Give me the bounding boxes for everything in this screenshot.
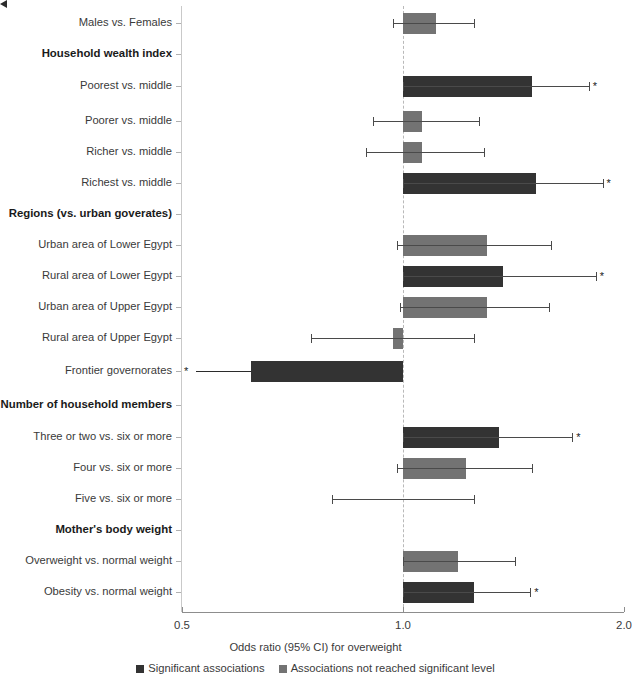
significance-star: *: [576, 432, 580, 443]
ci-cap-high: [603, 179, 604, 188]
ci-cap-low: [400, 303, 401, 312]
ci-cap-low: [397, 464, 398, 473]
legend-item: Associations not reached significant lev…: [279, 663, 495, 674]
ci-cap-high: [474, 19, 475, 28]
ci-cap-high: [515, 557, 516, 566]
row-label: Richest vs. middle: [81, 177, 172, 188]
x-axis-tick: [403, 607, 404, 612]
row-tick: [176, 307, 181, 308]
row-tick: [176, 592, 181, 593]
ci-cap-low: [403, 433, 404, 442]
ci-cap-low: [403, 588, 404, 597]
ci-cap-low: [403, 272, 404, 281]
row-label: Three or two vs. six or more: [33, 431, 172, 442]
ci-cap-high: [474, 495, 475, 504]
row-tick: [176, 371, 181, 372]
row-label: Poorer vs. middle: [85, 115, 172, 126]
row-tick: [176, 121, 181, 122]
ci-line: [332, 499, 474, 500]
row-label: Rural area of Lower Egypt: [42, 270, 172, 281]
ci-line: [403, 561, 515, 562]
arrow-shaft: [196, 371, 251, 372]
chart-legend: Significant associationsAssociations not…: [0, 663, 631, 674]
row-tick: [176, 245, 181, 246]
group-label: Regions (vs. urban goverates): [9, 208, 172, 219]
plot-left-spine: [181, 6, 182, 612]
row-label: Poorest vs. middle: [80, 80, 172, 91]
ci-line: [403, 276, 596, 277]
ci-cap-high: [551, 241, 552, 250]
arrow-head: [0, 0, 7, 8]
row-tick: [176, 23, 181, 24]
significance-star: *: [184, 366, 188, 377]
ci-cap-high: [572, 433, 573, 442]
row-tick: [176, 405, 181, 406]
ci-cap-low: [403, 557, 404, 566]
row-tick: [176, 214, 181, 215]
row-label: Five vs. six or more: [75, 493, 172, 504]
significance-star: *: [600, 271, 604, 282]
ci-cap-low: [403, 179, 404, 188]
row-label: Richer vs. middle: [86, 146, 172, 157]
row-label: Males vs. Females: [79, 17, 172, 28]
ci-line: [397, 245, 551, 246]
ci-cap-low: [393, 19, 394, 28]
row-tick: [176, 468, 181, 469]
ci-line: [403, 86, 589, 87]
row-tick: [176, 152, 181, 153]
row-tick: [176, 54, 181, 55]
row-tick: [176, 183, 181, 184]
ci-line: [400, 307, 549, 308]
row-tick: [176, 437, 181, 438]
ci-line: [397, 468, 533, 469]
legend-label: Significant associations: [148, 662, 264, 674]
ci-line: [393, 23, 474, 24]
x-axis-title: Odds ratio (95% CI) for overweight: [0, 642, 631, 653]
row-tick: [176, 561, 181, 562]
ci-line: [373, 121, 479, 122]
ci-line: [311, 338, 474, 339]
x-axis-tick: [182, 607, 183, 612]
ci-cap-high: [530, 588, 531, 597]
row-tick: [176, 86, 181, 87]
legend-swatch-icon: [136, 665, 144, 673]
row-label: Urban area of Lower Egypt: [38, 239, 172, 250]
group-label: Mother's body weight: [55, 524, 172, 535]
ci-cap-low: [403, 82, 404, 91]
ci-line: [403, 183, 603, 184]
row-label: Obesity vs. normal weight: [44, 586, 172, 597]
x-axis-tick: [624, 607, 625, 612]
x-tick-label: 2.0: [610, 620, 636, 631]
ci-cap-high: [474, 334, 475, 343]
ci-cap-low: [366, 148, 367, 157]
row-tick: [176, 499, 181, 500]
legend-label: Associations not reached significant lev…: [291, 662, 495, 674]
ci-line: [403, 437, 572, 438]
ci-cap-high: [589, 82, 590, 91]
ci-cap-high: [484, 148, 485, 157]
row-label: Four vs. six or more: [73, 462, 172, 473]
x-axis-line: [182, 612, 624, 613]
ci-line: [366, 152, 484, 153]
ci-cap-high: [596, 272, 597, 281]
row-tick: [176, 338, 181, 339]
ci-line: [403, 592, 530, 593]
significance-star: *: [534, 587, 538, 598]
ci-cap-low: [373, 117, 374, 126]
significance-star: *: [607, 178, 611, 189]
group-label: Household wealth index: [42, 48, 172, 59]
row-label: Urban area of Upper Egypt: [38, 301, 172, 312]
row-label: Overweight vs. normal weight: [25, 555, 172, 566]
x-tick-label: 1.0: [389, 620, 417, 631]
row-tick: [176, 276, 181, 277]
ci-cap-high: [549, 303, 550, 312]
ci-cap-low: [332, 495, 333, 504]
row-tick: [176, 530, 181, 531]
x-tick-label: 0.5: [168, 620, 196, 631]
legend-item: Significant associations: [136, 663, 264, 674]
bar: [251, 361, 403, 382]
ci-cap-high: [479, 117, 480, 126]
ci-cap-low: [397, 241, 398, 250]
ci-cap-low: [311, 334, 312, 343]
